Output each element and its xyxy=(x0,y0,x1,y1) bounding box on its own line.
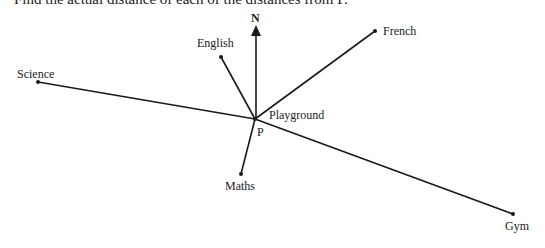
north-arrowhead-icon xyxy=(251,25,261,36)
line-to-gym xyxy=(255,119,513,214)
maths-label: Maths xyxy=(225,179,255,194)
line-to-maths xyxy=(241,119,255,174)
line-to-french xyxy=(255,31,375,119)
english-point xyxy=(219,55,223,59)
p-point xyxy=(253,117,257,121)
maths-point xyxy=(239,172,243,176)
french-point xyxy=(373,29,377,33)
north-label: N xyxy=(251,11,260,26)
french-label: French xyxy=(383,24,416,39)
line-to-english xyxy=(221,57,255,119)
p-label: P xyxy=(257,125,264,140)
direction-diagram xyxy=(0,0,545,248)
english-label: English xyxy=(197,36,234,51)
playground-label: Playground xyxy=(269,108,324,123)
line-to-science xyxy=(38,82,255,119)
gym-point xyxy=(511,212,515,216)
science-label: Science xyxy=(17,67,54,82)
gym-label: Gym xyxy=(505,219,529,234)
